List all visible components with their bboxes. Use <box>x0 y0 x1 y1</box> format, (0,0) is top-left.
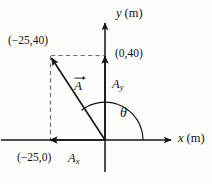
vector-a-glyph: A <box>74 79 82 92</box>
x-axis-label-var: x <box>178 131 184 145</box>
angle-label-theta: θ <box>120 106 127 120</box>
angle-arc-theta <box>82 102 143 140</box>
x-component-label-sub: x <box>76 156 80 166</box>
x-component-label: Ax <box>68 152 80 166</box>
x-component-label-base: A <box>68 151 76 165</box>
vector-a-label: A <box>74 79 82 92</box>
point-label-foot: (−25,0) <box>17 152 51 164</box>
x-axis-label: x(m) <box>178 132 205 145</box>
vector-diagram-figure: (−25,40) (0,40) (−25,0) y(m) x(m) Ax Ay … <box>0 0 212 184</box>
y-component-label-base: A <box>112 77 120 91</box>
vector-overbar-arrow-icon <box>74 75 86 80</box>
y-axis-label-var: y <box>116 6 122 20</box>
x-axis-label-unit: (m) <box>187 131 205 145</box>
vector-a-label-text: A <box>74 78 82 93</box>
vector-a-arrow <box>52 58 106 140</box>
point-label-head: (−25,40) <box>8 35 48 47</box>
y-component-label-sub: y <box>120 82 124 92</box>
point-label-y-intercept: (0,40) <box>115 48 143 60</box>
y-axis-label: y(m) <box>116 7 143 20</box>
y-axis-label-unit: (m) <box>125 6 143 20</box>
y-component-label: Ay <box>112 78 124 92</box>
